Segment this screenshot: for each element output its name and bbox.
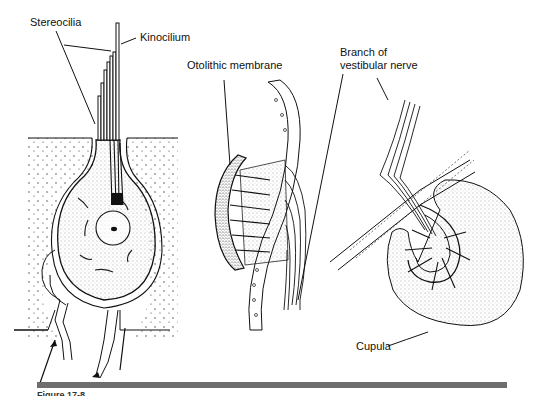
label-otolithic-membrane: Otolithic membrane bbox=[187, 59, 282, 71]
figure-caption: Figure 17-8 bbox=[37, 390, 85, 396]
label-kinocilium: Kinocilium bbox=[140, 31, 190, 43]
label-branch-line2: vestibular nerve bbox=[340, 59, 418, 71]
macula-drawing bbox=[215, 74, 388, 330]
label-cupula: Cupula bbox=[356, 340, 391, 352]
caption-rule bbox=[37, 382, 507, 388]
crista-drawing bbox=[330, 100, 523, 346]
label-stereocilia: Stereocilia bbox=[30, 16, 81, 28]
hair-cell-drawing bbox=[14, 23, 178, 383]
label-branch-line1: Branch of bbox=[340, 46, 387, 58]
figure: Stereocilia Kinocilium Otolithic membran… bbox=[0, 0, 544, 396]
